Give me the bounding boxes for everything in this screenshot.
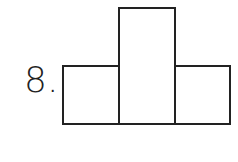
- right-rectangle: [174, 65, 231, 125]
- middle-rectangle: [118, 7, 176, 125]
- problem-number: 8.: [24, 60, 58, 100]
- left-rectangle: [62, 65, 120, 125]
